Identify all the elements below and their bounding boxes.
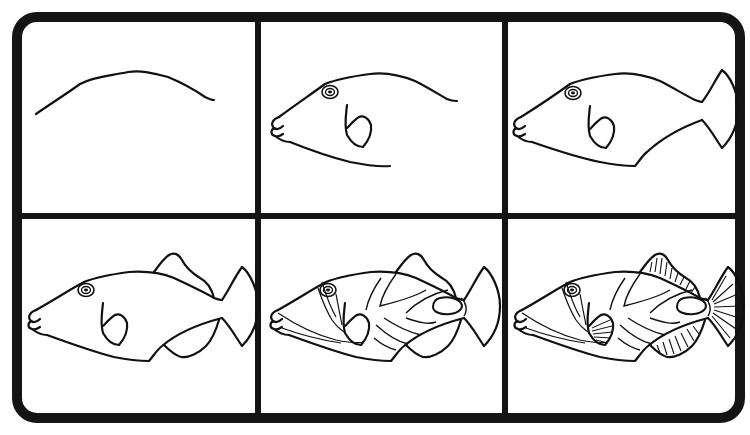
drawing-steps-grid bbox=[0, 0, 750, 435]
